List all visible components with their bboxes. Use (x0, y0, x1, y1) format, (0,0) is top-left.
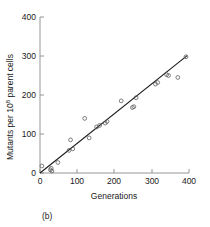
data-point (56, 161, 60, 165)
data-point (69, 138, 73, 142)
y-axis-title-tail: parent cells (5, 54, 15, 100)
panel-label: (b) (42, 211, 53, 221)
y-axis-title: Mutants per 108 parent cells (5, 54, 15, 160)
y-axis-title-base: Mutants per 10 (5, 103, 15, 160)
y-tick-label-300: 300 (22, 51, 36, 61)
scatter-plot: Mutants per 108 parent cells 0 100 200 3… (0, 0, 210, 227)
data-point (83, 117, 87, 121)
data-point (119, 99, 123, 103)
data-point (87, 136, 91, 140)
x-axis-tick-labels: 0 100 200 300 400 (38, 176, 197, 186)
y-tick-label-0: 0 (31, 168, 36, 178)
x-tick-label-100: 100 (70, 176, 84, 186)
y-tick-label-100: 100 (22, 129, 36, 139)
x-tick-label-400: 400 (182, 176, 196, 186)
y-axis-tick-labels: 0 100 200 300 400 (22, 12, 36, 178)
y-tick-label-400: 400 (22, 12, 36, 22)
data-point (40, 164, 44, 168)
svg-text:Mutants per 108 parent cells: Mutants per 108 parent cells (5, 54, 15, 160)
x-tick-label-200: 200 (107, 176, 121, 186)
y-axis-ticks (40, 17, 44, 173)
x-tick-label-300: 300 (145, 176, 159, 186)
figure-panel-b: Mutants per 108 parent cells 0 100 200 3… (0, 0, 210, 227)
y-tick-label-200: 200 (22, 90, 36, 100)
x-tick-label-0: 0 (38, 176, 43, 186)
data-point (176, 76, 180, 80)
x-axis-title: Generations (91, 191, 137, 201)
x-axis-ticks (40, 169, 189, 173)
